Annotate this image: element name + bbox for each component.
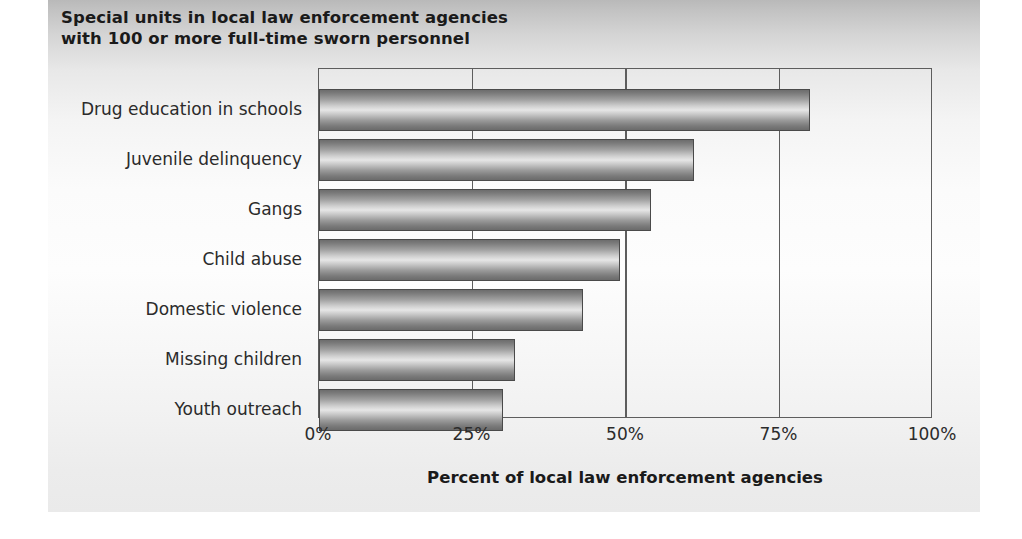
bar xyxy=(319,239,620,281)
x-axis-tick-label: 100% xyxy=(908,424,957,444)
x-axis-tick-labels: 0%25%50%75%100% xyxy=(318,424,932,452)
bar xyxy=(319,289,583,331)
y-axis-category-labels: Drug education in schoolsJuvenile delinq… xyxy=(48,68,310,418)
bar-row xyxy=(319,189,933,231)
bars-layer xyxy=(319,69,931,417)
bar-row xyxy=(319,289,933,331)
x-axis-tick-label: 25% xyxy=(453,424,491,444)
x-axis-title: Percent of local law enforcement agencie… xyxy=(318,468,932,487)
bar-row xyxy=(319,239,933,281)
x-axis-tick-label: 75% xyxy=(760,424,798,444)
y-axis-label: Drug education in schools xyxy=(81,99,302,119)
x-axis-tick-label: 50% xyxy=(606,424,644,444)
x-axis-tick-label: 0% xyxy=(305,424,332,444)
chart-title: Special units in local law enforcement a… xyxy=(61,7,661,49)
bar-row xyxy=(319,139,933,181)
plot-area xyxy=(318,68,932,418)
bar-row xyxy=(319,339,933,381)
y-axis-label: Child abuse xyxy=(202,249,302,269)
y-axis-label: Youth outreach xyxy=(174,399,302,419)
y-axis-label: Domestic violence xyxy=(146,299,302,319)
bar xyxy=(319,89,810,131)
chart-title-line-2: with 100 or more full-time sworn personn… xyxy=(61,28,661,49)
y-axis-label: Gangs xyxy=(248,199,302,219)
y-axis-label: Juvenile delinquency xyxy=(126,149,302,169)
chart-figure-panel: Special units in local law enforcement a… xyxy=(48,0,980,512)
chart-title-line-1: Special units in local law enforcement a… xyxy=(61,7,661,28)
bar xyxy=(319,189,651,231)
bar xyxy=(319,339,515,381)
y-axis-label: Missing children xyxy=(165,349,302,369)
bar-row xyxy=(319,89,933,131)
bar xyxy=(319,139,694,181)
